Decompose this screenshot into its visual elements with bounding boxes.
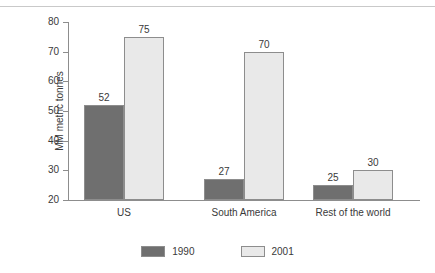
x-tick-label-us: US — [117, 207, 131, 218]
y-tick-label: 40 — [48, 136, 59, 146]
bar-value-label: 25 — [327, 173, 338, 183]
y-tick-mark — [63, 200, 68, 201]
bar-value-label: 30 — [367, 158, 378, 168]
legend-item-2001[interactable]: 2001 — [241, 246, 294, 257]
bar-rest-of-the-world-1990[interactable]: 25 — [313, 185, 353, 200]
y-tick-mark — [63, 170, 68, 171]
bar-value-label: 70 — [258, 40, 269, 50]
chart-legend: 1990 2001 — [0, 246, 435, 257]
bar-value-label: 27 — [218, 167, 229, 177]
legend-label-2001: 2001 — [272, 247, 294, 257]
y-tick-mark — [63, 22, 68, 23]
y-tick-mark — [63, 141, 68, 142]
bar-south-america-2001[interactable]: 70 — [244, 52, 284, 200]
bar-value-label: 75 — [138, 25, 149, 35]
bar-south-america-1990[interactable]: 27 — [204, 179, 244, 200]
y-tick-label: 50 — [48, 106, 59, 116]
bar-value-label: 52 — [98, 93, 109, 103]
y-tick-label: 30 — [48, 165, 59, 175]
bar-rest-of-the-world-2001[interactable]: 30 — [353, 170, 393, 200]
x-axis-line — [68, 200, 420, 201]
legend-label-1990: 1990 — [172, 247, 194, 257]
y-tick-label: 70 — [48, 47, 59, 57]
x-tick-label-rest-of-the-world: Rest of the world — [315, 207, 390, 218]
y-tick-label: 20 — [48, 195, 59, 205]
y-tick-label: 60 — [48, 76, 59, 86]
bar-us-1990[interactable]: 52 — [84, 105, 124, 200]
top-divider-rule — [0, 6, 435, 7]
chart-figure: MM metric tonnes 20304050607080527527702… — [0, 0, 435, 273]
plot-area: 20304050607080527527702530 — [68, 22, 420, 200]
x-tick-label-south-america: South America — [211, 207, 276, 218]
y-tick-mark — [63, 52, 68, 53]
y-tick-mark — [63, 111, 68, 112]
legend-item-1990[interactable]: 1990 — [141, 246, 194, 257]
bar-us-2001[interactable]: 75 — [124, 37, 164, 200]
y-tick-mark — [63, 81, 68, 82]
y-axis-title-container: MM metric tonnes — [8, 22, 26, 200]
y-tick-label: 80 — [48, 17, 59, 27]
legend-swatch-1990 — [141, 246, 165, 257]
legend-swatch-2001 — [241, 246, 265, 257]
